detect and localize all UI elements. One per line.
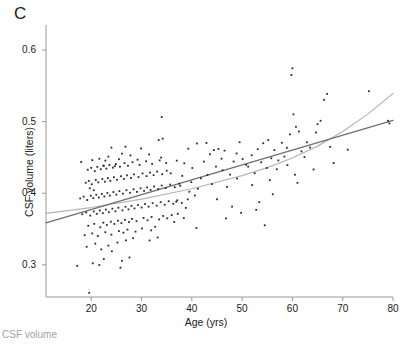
- data-point: [151, 216, 153, 218]
- data-point: [326, 93, 328, 95]
- data-point: [96, 213, 98, 215]
- data-point: [130, 177, 132, 179]
- axes-group: [42, 25, 393, 301]
- data-point: [116, 179, 118, 181]
- data-point: [181, 175, 183, 177]
- data-point: [231, 206, 233, 208]
- data-point: [158, 219, 160, 221]
- data-point: [148, 206, 150, 208]
- data-point: [125, 206, 127, 208]
- x-tick-label-4: 60: [280, 303, 304, 314]
- data-point: [294, 174, 296, 176]
- data-point: [112, 167, 114, 169]
- data-point: [125, 239, 127, 241]
- data-point: [174, 186, 176, 188]
- data-point: [245, 164, 247, 166]
- data-point: [236, 178, 238, 180]
- data-point: [76, 265, 78, 267]
- data-point: [104, 181, 106, 183]
- data-point: [368, 90, 370, 92]
- data-point: [262, 142, 264, 144]
- data-point: [87, 225, 89, 227]
- data-point: [258, 201, 260, 203]
- data-point: [81, 213, 83, 215]
- data-point: [101, 193, 103, 195]
- data-point: [88, 292, 90, 294]
- data-point: [94, 243, 96, 245]
- data-point: [264, 224, 266, 226]
- data-point: [181, 202, 183, 204]
- data-point: [102, 165, 104, 167]
- data-point: [215, 166, 217, 168]
- data-point: [162, 138, 164, 140]
- data-point: [389, 123, 391, 125]
- data-point: [116, 194, 118, 196]
- data-point: [257, 148, 259, 150]
- data-point: [104, 231, 106, 233]
- y-tick-label-0: 0.3: [10, 259, 36, 270]
- x-tick-label-0: 20: [79, 303, 103, 314]
- scatter-plot-canvas: [0, 0, 412, 345]
- data-point: [104, 160, 106, 162]
- data-point: [136, 220, 138, 222]
- data-point: [91, 159, 93, 161]
- data-point: [153, 186, 155, 188]
- data-point: [286, 164, 288, 166]
- data-point: [297, 182, 299, 184]
- data-point: [122, 193, 124, 195]
- data-point: [286, 147, 288, 149]
- data-point: [140, 187, 142, 189]
- data-point: [86, 246, 88, 248]
- data-point: [233, 161, 235, 163]
- data-point: [107, 245, 109, 247]
- data-point: [169, 184, 171, 186]
- data-point: [143, 190, 145, 192]
- data-point: [113, 223, 115, 225]
- data-point: [149, 172, 151, 174]
- data-point: [139, 164, 141, 166]
- data-point: [160, 201, 162, 203]
- data-point: [178, 183, 180, 185]
- x-tick-label-5: 70: [331, 303, 355, 314]
- x-tick-label-6: 80: [381, 303, 405, 314]
- data-point: [98, 158, 100, 160]
- data-point: [142, 173, 144, 175]
- data-point: [85, 211, 87, 213]
- data-point: [179, 185, 181, 187]
- data-point: [141, 207, 143, 209]
- data-point: [121, 222, 123, 224]
- data-point: [102, 222, 104, 224]
- x-tick-label-2: 40: [180, 303, 204, 314]
- data-point: [118, 230, 120, 232]
- data-point: [347, 149, 349, 151]
- data-point: [122, 209, 124, 211]
- data-point: [101, 178, 103, 180]
- data-point: [162, 215, 164, 217]
- data-point: [187, 148, 189, 150]
- data-point: [80, 161, 82, 163]
- data-point: [222, 169, 224, 171]
- data-point: [166, 170, 168, 172]
- data-point: [175, 201, 177, 203]
- data-point: [159, 159, 161, 161]
- data-point: [173, 221, 175, 223]
- data-point: [254, 172, 256, 174]
- data-point: [270, 157, 272, 159]
- data-point: [267, 139, 269, 141]
- data-point: [90, 167, 92, 169]
- data-point: [89, 187, 91, 189]
- data-point: [90, 195, 92, 197]
- data-point: [157, 188, 159, 190]
- data-point: [110, 234, 112, 236]
- data-point: [128, 221, 130, 223]
- data-point: [110, 221, 112, 223]
- data-point: [247, 166, 249, 168]
- data-point: [133, 173, 135, 175]
- data-point: [108, 164, 110, 166]
- data-point: [119, 166, 121, 168]
- data-point: [168, 200, 170, 202]
- data-point: [211, 183, 213, 185]
- data-point: [266, 167, 268, 169]
- data-point: [85, 182, 87, 184]
- data-point: [102, 212, 104, 214]
